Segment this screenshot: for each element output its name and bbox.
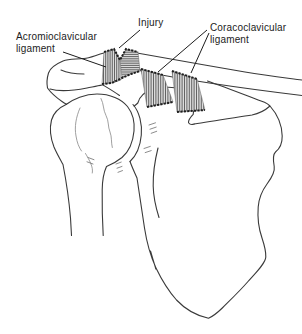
acromioclavicular-ligament-band <box>102 46 141 87</box>
coracoclavicular-ligament-bundle-2 <box>172 69 205 114</box>
epiphyseal-line <box>101 99 112 148</box>
label-acromioclavicular-line1: Acromioclavicular <box>16 31 97 43</box>
bone-detail-lines <box>75 99 112 174</box>
label-coracoclavicular-line2: ligament <box>210 34 286 46</box>
label-coracoclavicular-ligament: Coracoclavicular ligament <box>210 22 286 45</box>
label-acromioclavicular-line2: ligament <box>16 43 97 55</box>
label-acromioclavicular-ligament: Acromioclavicular ligament <box>16 31 97 54</box>
humerus-outline <box>50 94 134 236</box>
coracoclavicular-leader-line-2 <box>191 33 209 73</box>
shoulder-anatomy-figure: Acromioclavicular ligament Injury Coraco… <box>0 0 302 334</box>
label-coracoclavicular-line1: Coracoclavicular <box>210 22 286 34</box>
label-injury: Injury <box>138 17 163 29</box>
hatch-marks <box>87 123 157 173</box>
scapula-outline <box>130 81 282 318</box>
coracoclavicular-ligament-bundle-1 <box>141 67 173 109</box>
injury-leader-line <box>119 30 140 48</box>
tuberosity-inner-line <box>75 108 81 151</box>
coracoclavicular-leader-line-1 <box>158 30 207 72</box>
